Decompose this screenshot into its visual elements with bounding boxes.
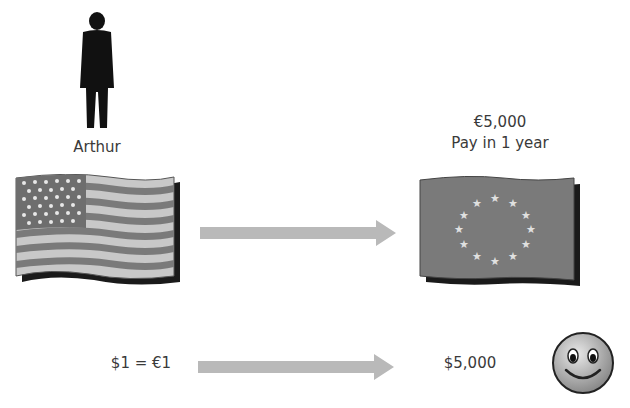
svg-text:★: ★ xyxy=(490,255,500,268)
us-flag-icon xyxy=(14,174,184,290)
eu-flag-icon: ★★★ ★★★ ★★★ ★★★ xyxy=(418,176,584,292)
svg-text:★: ★ xyxy=(526,223,536,236)
svg-text:★: ★ xyxy=(454,223,464,236)
svg-text:★: ★ xyxy=(472,197,482,210)
svg-text:★: ★ xyxy=(521,238,531,251)
payment-note: Pay in 1 year xyxy=(430,134,570,152)
svg-text:★: ★ xyxy=(490,192,500,205)
exchange-rate: $1 = €1 xyxy=(106,354,176,372)
svg-text:★: ★ xyxy=(521,209,531,222)
arrow-right-icon xyxy=(198,354,394,380)
svg-text:★: ★ xyxy=(459,209,469,222)
person-name: Arthur xyxy=(60,138,134,156)
svg-text:★: ★ xyxy=(459,238,469,251)
svg-text:★: ★ xyxy=(508,250,518,263)
amount-dollar: $5,000 xyxy=(430,354,510,372)
arrow-right-icon xyxy=(200,220,396,246)
svg-text:★: ★ xyxy=(472,250,482,263)
svg-text:★: ★ xyxy=(508,197,518,210)
person-silhouette-icon xyxy=(74,12,120,130)
amount-euro: €5,000 xyxy=(430,113,570,131)
smiley-face-icon xyxy=(550,330,616,396)
